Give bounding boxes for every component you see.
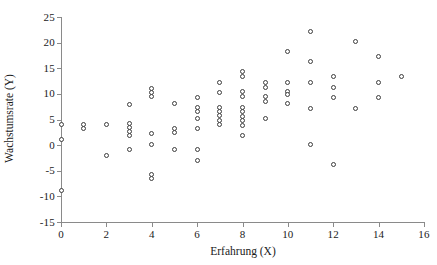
data-point [240,89,245,94]
data-point [240,123,245,128]
y-tick-label: 25 [21,12,55,23]
x-tick-label: 8 [230,229,256,240]
data-point [127,147,132,152]
x-tick-mark [197,222,198,227]
x-tick-mark [152,222,153,227]
data-point [331,162,336,167]
data-point [59,188,64,193]
data-point [195,109,200,114]
data-point [217,122,222,127]
x-tick-label: 16 [411,229,437,240]
x-tick-mark [243,222,244,227]
data-point [59,122,64,127]
y-tick-label: 15 [21,63,55,74]
y-axis-title: Wachstumsrate (Y) [3,54,16,184]
data-point [104,122,109,127]
data-point [195,158,200,163]
data-point [263,85,268,90]
x-tick-label: 6 [184,229,210,240]
x-tick-mark [61,222,62,227]
y-tick-label: 20 [21,37,55,48]
data-point [263,99,268,104]
y-tick-label: -15 [21,217,55,228]
x-tick-mark [333,222,334,227]
data-point [195,126,200,131]
data-point [59,137,64,142]
data-point [127,102,132,107]
x-tick-mark [379,222,380,227]
x-tick-label: 0 [48,229,74,240]
x-tick-mark [424,222,425,227]
y-tick-label: 10 [21,88,55,99]
data-point [308,80,313,85]
scatter-chart: -15-10-50510152025 0246810121416 Erfahru… [0,0,437,265]
data-point [263,116,268,121]
y-tick-label: -5 [21,165,55,176]
data-point [331,85,336,90]
y-tick-label: 5 [21,114,55,125]
x-tick-mark [288,222,289,227]
x-tick-label: 12 [320,229,346,240]
x-tick-label: 14 [366,229,392,240]
data-point [195,147,200,152]
data-point [308,29,313,34]
data-point [376,80,381,85]
x-tick-label: 4 [139,229,165,240]
y-tick-label: -10 [21,191,55,202]
x-tick-label: 10 [275,229,301,240]
data-point [331,95,336,100]
x-tick-mark [106,222,107,227]
data-point [308,106,313,111]
x-tick-label: 2 [93,229,119,240]
y-tick-label: 0 [21,140,55,151]
data-point [240,74,245,79]
x-axis-title: Erfahrung (X) [61,245,425,258]
